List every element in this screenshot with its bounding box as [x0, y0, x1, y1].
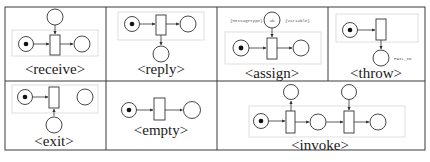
message-type-annotation: {MessageType}	[230, 19, 263, 23]
transition	[267, 38, 277, 59]
output-place	[184, 102, 201, 119]
cell-empty: <empty>	[122, 98, 201, 138]
transition	[154, 98, 165, 120]
token	[127, 108, 132, 113]
cell-label: <throw>	[350, 65, 402, 81]
transition-1	[286, 111, 295, 133]
transition	[156, 15, 166, 35]
request-place	[284, 85, 299, 100]
petri-net-table: <receive> <reply> ab {MessageType} {Vari…	[0, 0, 430, 162]
cell-receive: <receive>	[12, 9, 98, 77]
cell-label: <receive>	[25, 61, 85, 77]
transition-2	[344, 111, 354, 133]
message-place	[47, 9, 63, 25]
cell-throw: FAIL_ID <throw>	[336, 14, 418, 81]
token	[259, 119, 264, 124]
cell-exit: <exit>	[12, 85, 98, 149]
bottom-place	[46, 117, 62, 133]
variable-annotation: {Variable}	[285, 19, 311, 23]
cell-label: <reply>	[137, 61, 185, 77]
output-place	[77, 89, 93, 105]
cell-label: <empty>	[134, 122, 188, 138]
token	[23, 95, 28, 100]
token	[130, 22, 135, 27]
message-place	[153, 46, 169, 62]
cell-assign: ab {MessageType} {Variable} <assign>	[225, 12, 321, 81]
fault-place	[373, 50, 389, 66]
cell-label: <invoke>	[291, 137, 349, 153]
output-place	[370, 114, 386, 130]
token	[239, 46, 244, 51]
cell-label: <exit>	[34, 133, 73, 149]
output-place	[74, 36, 90, 52]
cell-label: <assign>	[245, 65, 299, 81]
transition	[49, 87, 59, 108]
cell-invoke: <invoke>	[249, 85, 405, 154]
token	[24, 42, 29, 47]
output-place	[180, 16, 196, 32]
transition	[376, 19, 386, 40]
token	[348, 28, 353, 33]
transition	[50, 35, 60, 55]
output-place	[293, 40, 309, 56]
middle-place	[310, 114, 326, 130]
cell-reply: <reply>	[118, 12, 204, 77]
place-text: ab	[269, 19, 275, 23]
response-place	[342, 85, 357, 100]
fault-annotation: FAIL_ID	[394, 57, 412, 61]
